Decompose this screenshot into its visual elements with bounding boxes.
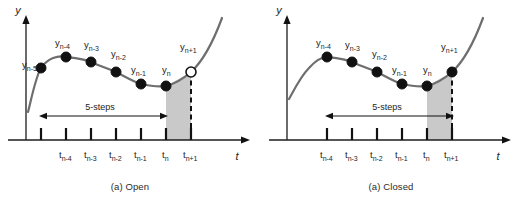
point-label-yn: yn xyxy=(423,64,432,77)
data-point-yn-1 xyxy=(136,79,146,89)
point-label-yn-1: yn-1 xyxy=(392,64,407,77)
t-axis-label: t xyxy=(496,150,500,162)
panel-open: 5-steps y t yn-5 xyxy=(0,0,260,205)
data-point-yn-4 xyxy=(61,52,71,62)
data-point-yn-1 xyxy=(397,79,407,89)
solution-curve xyxy=(28,18,222,112)
data-point-yn-5 xyxy=(36,63,46,73)
data-point-yn-2 xyxy=(372,67,382,77)
tick-label-tn1: tn+1 xyxy=(183,149,198,162)
tick-label-tn-1: tn-1 xyxy=(134,149,147,162)
point-label-yn-2: yn-2 xyxy=(372,48,387,61)
y-axis-label: y xyxy=(275,4,283,16)
tick-label-tn-2: tn-2 xyxy=(370,149,383,162)
tick-label-tn-3: tn-3 xyxy=(84,149,97,162)
tick-label-tn: tn xyxy=(162,149,169,162)
data-point-yn1-closed xyxy=(447,67,457,77)
point-label-yn-2: yn-2 xyxy=(111,48,126,61)
five-steps-label: 5-steps xyxy=(85,102,115,112)
data-point-yn-4 xyxy=(322,52,332,62)
open-diagram-svg: 5-steps y t yn-5 xyxy=(0,0,260,180)
data-point-yn1-open xyxy=(186,67,196,77)
tick-label-tn: tn xyxy=(423,149,430,162)
t-axis-arrowhead xyxy=(241,136,250,143)
panel-closed: 5-steps y t yn-4 yn-3 xyxy=(261,0,521,205)
data-point-yn-2 xyxy=(111,67,121,77)
y-axis-arrowhead xyxy=(22,15,29,24)
five-steps-arrow-left-head xyxy=(325,113,333,119)
tick-label-tn-4: tn-4 xyxy=(59,149,72,162)
point-label-yn-4: yn-4 xyxy=(55,37,70,50)
data-point-yn-3 xyxy=(86,57,96,67)
y-axis-label: y xyxy=(14,4,22,16)
point-label-yn: yn xyxy=(162,64,171,77)
point-label-yn-4: yn-4 xyxy=(316,37,331,50)
closed-diagram-svg: 5-steps y t yn-4 yn-3 xyxy=(261,0,521,180)
caption-open: (a) Open xyxy=(0,181,260,192)
caption-closed: (a) Closed xyxy=(261,181,521,192)
five-steps-arrow-left-head xyxy=(39,113,47,119)
data-point-yn-3 xyxy=(347,57,357,67)
tick-label-tn-2: tn-2 xyxy=(109,149,122,162)
point-label-yn-3: yn-3 xyxy=(84,39,99,52)
tick-label-tn-4: tn-4 xyxy=(320,149,333,162)
five-steps-label: 5-steps xyxy=(372,102,402,112)
t-axis-label: t xyxy=(235,150,239,162)
point-label-yn-1: yn-1 xyxy=(131,64,146,77)
y-axis-arrowhead xyxy=(283,15,290,24)
tick-label-tn-3: tn-3 xyxy=(345,149,358,162)
point-label-yn1: yn+1 xyxy=(441,41,458,54)
point-label-yn-5: yn-5 xyxy=(22,59,37,72)
tick-label-tn1: tn+1 xyxy=(444,149,459,162)
data-point-yn xyxy=(422,81,432,91)
point-label-yn-3: yn-3 xyxy=(345,39,360,52)
data-point-yn xyxy=(161,81,171,91)
figure-root: 5-steps y t yn-5 xyxy=(0,0,521,205)
t-axis-arrowhead xyxy=(502,136,511,143)
tick-label-tn-1: tn-1 xyxy=(395,149,408,162)
point-label-yn1: yn+1 xyxy=(180,41,197,54)
